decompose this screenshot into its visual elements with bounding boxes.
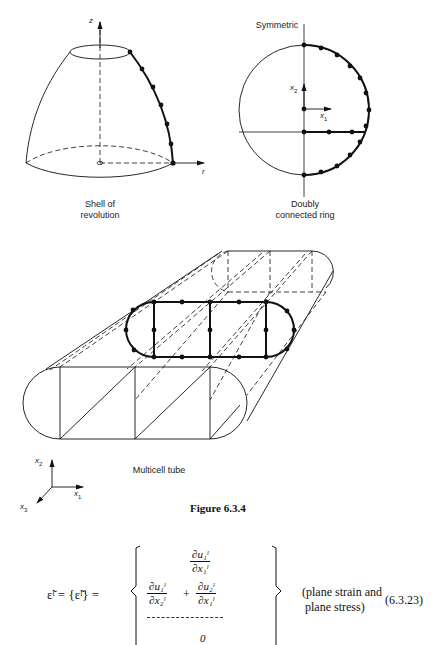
row3-value: 0: [200, 632, 206, 644]
equation-number: (6.3.23): [385, 593, 423, 608]
fraction-row2b: ∂u₂ˡ ∂x₁ˡ: [196, 580, 216, 607]
ring-nodes: [302, 43, 372, 178]
tube-axis-label-x3: x3: [20, 502, 27, 513]
axis-label-r: r: [202, 167, 205, 176]
tube-x2-sub: 2: [39, 461, 42, 467]
row2b-denominator: ∂x₁ˡ: [196, 594, 216, 607]
tube-axis-label-x2: x2: [35, 456, 42, 467]
x2-sub: 2: [294, 88, 297, 94]
row2a-numerator: ∂u₁ˡ: [147, 580, 167, 594]
row1-numerator: ∂u₁ˡ: [190, 548, 210, 562]
row1-denominator: ∂x₁ˡ: [190, 562, 210, 575]
note-line1: (plane strain and: [302, 585, 382, 600]
tube-axis-label-x1: x1: [74, 489, 81, 500]
axis-label-x2: x2: [290, 83, 297, 94]
equation-lhs: ε̃ˡ = {ε̃ˡ} =: [47, 587, 99, 603]
note-line2: plane stress): [302, 600, 382, 615]
fraction-row1: ∂u₁ˡ ∂x₁ˡ: [190, 548, 210, 575]
shell-label: Shell of revolution: [70, 199, 130, 221]
shell-nodes: [128, 50, 176, 166]
row2b-numerator: ∂u₂ˡ: [196, 580, 216, 594]
shell-label-line1: Shell of: [70, 199, 130, 210]
tube-label: Multicell tube: [124, 465, 194, 476]
doubly-connected-ring: [239, 24, 371, 197]
equation-note: (plane strain and plane stress): [302, 585, 382, 615]
shell-label-line2: revolution: [70, 210, 130, 221]
ring-label-line1: Doubly: [270, 199, 340, 210]
ring-label: Doubly connected ring: [270, 199, 340, 221]
equation-6-3-23: ε̃ˡ = {ε̃ˡ} = ∂u₁ˡ ∂x₁ˡ ∂u₁ˡ ∂x₂ˡ + ∂u₂ˡ…: [0, 546, 439, 645]
ring-top-label: Symmetric: [252, 20, 302, 31]
row2a-denominator: ∂x₂ˡ: [147, 594, 167, 607]
figure-caption: Figure 6.3.4: [190, 502, 246, 514]
axis-label-x1: x1: [320, 111, 327, 122]
tube-x1-sub: 1: [78, 494, 81, 500]
x1-sub: 1: [324, 116, 327, 122]
tube-x3-sub: 3: [24, 507, 27, 513]
shell-of-revolution: [26, 22, 204, 177]
fraction-row2a: ∂u₁ˡ ∂x₂ˡ: [147, 580, 167, 607]
plus-sign: +: [183, 587, 190, 602]
ring-label-line2: connected ring: [270, 210, 340, 221]
axis-label-z: z: [89, 16, 93, 25]
dashed-separator: [147, 617, 223, 618]
